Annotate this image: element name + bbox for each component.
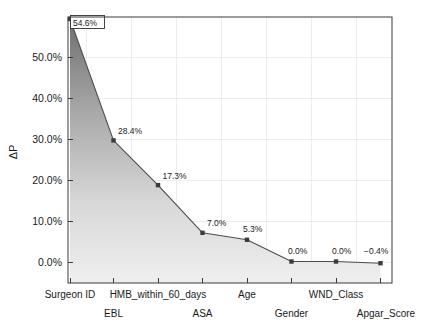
point-label-17: 17.3% — [163, 171, 188, 181]
data-point-marker[interactable] — [200, 231, 204, 235]
ytick-label-50: 50.0% — [32, 51, 62, 63]
x-axis-tick-labels: Surgeon ID EBL HMB_within_60_days ASA Ag… — [45, 289, 416, 319]
point-label-0a: 0.0% — [288, 246, 308, 256]
data-point-marker[interactable] — [245, 238, 249, 242]
data-point-marker[interactable] — [378, 261, 382, 265]
ytick-label-40: 40.0% — [32, 92, 62, 104]
ytick-label-10: 10.0% — [32, 215, 62, 227]
point-label-neg: −0.4% — [364, 246, 389, 256]
ytick-label-30: 30.0% — [32, 133, 62, 145]
chart-plot[interactable]: 54.6% 28.4% 17.3% 7.0% 5.3% 0.0% 0.0% −0… — [0, 0, 432, 336]
y-axis-label: ΔP — [7, 145, 19, 160]
xtick-label-apgar-score: Apgar_Score — [357, 308, 416, 319]
point-label-28: 28.4% — [118, 126, 143, 136]
figure-canvas: 54.6% 28.4% 17.3% 7.0% 5.3% 0.0% 0.0% −0… — [0, 0, 432, 336]
xtick-label-gender: Gender — [275, 308, 309, 319]
point-label-7: 7.0% — [207, 218, 227, 228]
point-label-5: 5.3% — [243, 224, 263, 234]
data-point-marker[interactable] — [289, 259, 293, 263]
xtick-label-age: Age — [238, 289, 256, 300]
point-label-0b: 0.0% — [332, 246, 352, 256]
ytick-label-0: 0.0% — [38, 256, 62, 268]
xtick-label-asa: ASA — [192, 308, 212, 319]
xtick-label-surgeon-id: Surgeon ID — [45, 289, 96, 300]
xtick-label-ebl: EBL — [104, 308, 123, 319]
y-axis-tick-labels: 0.0% 10.0% 20.0% 30.0% 40.0% 50.0% — [32, 51, 62, 268]
data-point-marker[interactable] — [111, 138, 115, 142]
data-point-marker[interactable] — [334, 259, 338, 263]
xtick-label-wnd-class: WND_Class — [309, 289, 363, 300]
datatip-label: 54.6% — [73, 18, 98, 28]
ytick-label-20: 20.0% — [32, 174, 62, 186]
data-point-marker[interactable] — [156, 183, 160, 187]
xtick-label-hmb-within-60-days: HMB_within_60_days — [110, 289, 207, 300]
